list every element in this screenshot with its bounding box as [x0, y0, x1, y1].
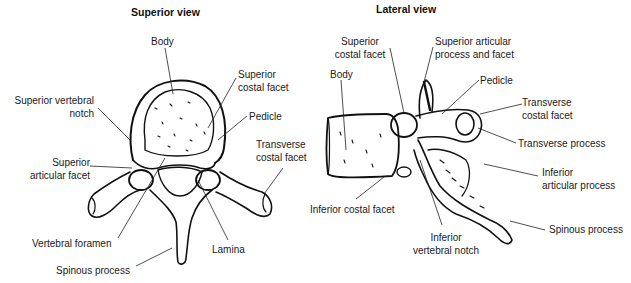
label-superior-vertebral-notch: Superior vertebral notch	[8, 94, 94, 120]
superior-view-vertebra-drawing	[88, 80, 271, 264]
label-vertebral-foramen: Vertebral foramen	[32, 237, 112, 250]
lateral-view-title: Lateral view	[376, 3, 436, 15]
label-lateral-transverse-costal-facet: Transverse costal facet	[522, 96, 573, 122]
label-lamina: Lamina	[212, 243, 245, 256]
label-superior-articular-facet: Superior articular facet	[20, 156, 90, 182]
label-inferior-costal-facet: Inferior costal facet	[310, 203, 394, 216]
label-superior-costal-facet: Superior costal facet	[238, 68, 289, 94]
label-lateral-body: Body	[330, 68, 353, 81]
label-superior-pedicle: Pedicle	[249, 110, 282, 123]
label-superior-body: Body	[151, 35, 174, 48]
label-inferior-vertebral-notch: Inferior vertebral notch	[406, 231, 486, 257]
label-lateral-pedicle: Pedicle	[480, 74, 513, 87]
label-transverse-process: Transverse process	[518, 137, 605, 150]
label-superior-articular-process-and-facet: Superior articular process and facet	[435, 35, 514, 61]
lateral-view-vertebra-drawing	[327, 80, 513, 244]
label-superior-transverse-costal-facet: Transverse costal facet	[256, 138, 307, 164]
label-lateral-superior-costal-facet: Superior costal facet	[328, 35, 392, 61]
superior-view-title: Superior view	[131, 6, 200, 18]
label-lateral-spinous-process: Spinous process	[549, 223, 623, 236]
label-inferior-articular-process: Inferior articular process	[542, 166, 615, 192]
label-superior-spinous-process: Spinous process	[56, 264, 130, 277]
